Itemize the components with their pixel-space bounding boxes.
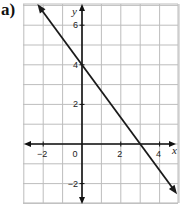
x-tick-label: −2 bbox=[37, 149, 47, 159]
y-tick-label: −2 bbox=[68, 179, 78, 189]
data-line bbox=[37, 4, 177, 194]
coordinate-plane: −2024642−2xy bbox=[0, 0, 190, 215]
y-tick-label: 2 bbox=[73, 99, 78, 109]
y-tick-label: 4 bbox=[73, 60, 78, 70]
y-tick-label: 6 bbox=[73, 20, 78, 30]
x-tick-label: 2 bbox=[117, 149, 122, 159]
grid-lines bbox=[23, 4, 179, 203]
y-axis-label: y bbox=[71, 5, 77, 17]
x-axis-left-arrow bbox=[24, 141, 31, 147]
x-tick-label: 4 bbox=[156, 149, 161, 159]
x-tick-label: 0 bbox=[72, 149, 77, 159]
x-axis-label: x bbox=[171, 144, 177, 156]
